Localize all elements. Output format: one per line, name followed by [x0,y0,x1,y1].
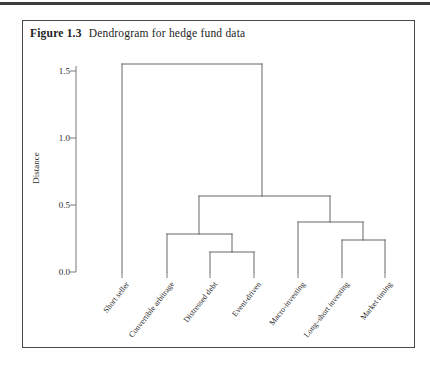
merge-m1 [210,252,254,272]
merge-m5 [199,196,330,234]
y-axis-group [70,66,76,272]
merge-m3 [342,240,385,272]
dendrogram-tree [122,64,385,272]
merge-m4 [298,222,363,272]
figure-page: Figure 1.3Dendrogram for hedge fund data… [0,0,430,368]
merge-m6-root [122,64,262,272]
leaf-tick-group [122,272,385,278]
merge-m2 [167,234,232,272]
